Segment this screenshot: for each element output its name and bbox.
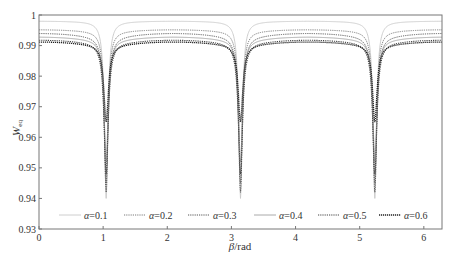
- x-tick-label: 0: [37, 232, 42, 243]
- y-tick-label: 0.93: [19, 224, 37, 235]
- y-tick-label: 1: [31, 10, 36, 21]
- legend: α=0.1α=0.2α=0.3α=0.4α=0.5α=0.6: [59, 210, 427, 221]
- legend-label: α=0.2: [149, 210, 172, 221]
- data-series-group: [39, 21, 442, 198]
- y-axis-label: Weq: [10, 120, 24, 136]
- y-tick-label: 0.95: [19, 162, 37, 173]
- x-tick-label: 2: [165, 232, 170, 243]
- y-tick-label: 0.97: [19, 101, 37, 112]
- x-tick-label: 5: [357, 232, 362, 243]
- series-line-alpha-5: [39, 40, 442, 174]
- legend-label: α=0.4: [279, 210, 302, 221]
- y-tick-label: 0.94: [19, 193, 37, 204]
- y-tick-label: 0.99: [19, 40, 37, 51]
- x-axis-label: β/rad: [228, 240, 252, 252]
- x-tick-label: 1: [101, 232, 106, 243]
- y-tick-label: 0.98: [19, 71, 37, 82]
- legend-label: α=0.1: [84, 210, 107, 221]
- legend-label: α=0.5: [343, 210, 366, 221]
- x-tick-label: 4: [293, 232, 298, 243]
- line-chart: 0.930.940.950.960.970.980.991 0123456 We…: [0, 0, 451, 261]
- legend-label: α=0.3: [213, 210, 236, 221]
- x-tick-label: 6: [421, 232, 426, 243]
- legend-label: α=0.6: [404, 210, 427, 221]
